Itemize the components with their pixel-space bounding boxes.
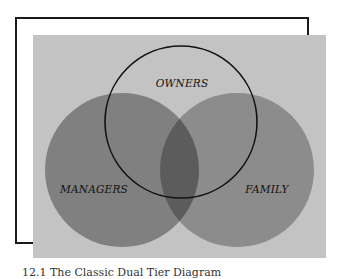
- family-label: FAMILY: [244, 183, 289, 195]
- owners-label: OWNERS: [156, 77, 209, 89]
- managers-label: MANAGERS: [59, 183, 128, 195]
- figure-caption: 12.1 The Classic Dual Tier Diagram: [22, 266, 221, 279]
